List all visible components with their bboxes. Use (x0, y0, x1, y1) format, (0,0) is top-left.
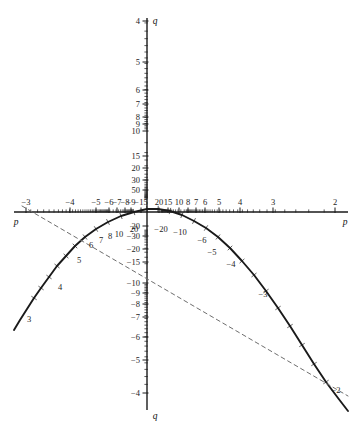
q-axis-tick-label: −20 (127, 244, 140, 254)
q-axis-label-top: q (153, 16, 158, 26)
curve-value-label: 5 (77, 255, 81, 265)
nomogram-plot: −3−4−5−6−7−8−9−1520151087654324567891015… (0, 0, 362, 427)
p-axis-tick-label: −4 (65, 197, 75, 207)
curve-value-label: −2 (331, 385, 340, 395)
p-axis-tick-label: 2 (333, 197, 337, 207)
curve-value-label: −20 (154, 224, 167, 234)
p-axis-tick-label: 6 (203, 197, 207, 207)
p-axis-tick-label: 15 (164, 197, 173, 207)
p-axis-tick-label: −15 (134, 197, 147, 207)
q-axis-tick-label: −10 (127, 278, 140, 288)
q-axis-tick-label: 10 (132, 126, 141, 136)
q-axis-tick-label: −8 (131, 299, 140, 309)
p-axis-tick-label: 7 (194, 197, 198, 207)
p-axis-label-left: p (13, 217, 19, 227)
q-axis-tick-label: 15 (132, 151, 141, 161)
p-axis-tick-label: 8 (186, 197, 190, 207)
curve-value-label: 6 (89, 240, 93, 250)
p-axis-ticks-right: 2015108765432 (155, 197, 337, 213)
q-axis-tick-label: −6 (131, 332, 140, 342)
series-parabolic-curve (14, 209, 348, 411)
p-axis-tick-label: 3 (271, 197, 275, 207)
q-axis-label-bottom: q (153, 411, 158, 421)
p-axis-tick-label: −3 (21, 197, 30, 207)
q-axis-tick-label: 5 (136, 57, 140, 67)
curve-value-label: −3 (258, 289, 267, 299)
p-axis-tick-label: −5 (91, 197, 100, 207)
q-axis-tick-label: −5 (131, 355, 140, 365)
curve-value-label: −5 (207, 247, 216, 257)
q-axis-tick-label: −15 (127, 257, 140, 267)
q-axis-tick-label: −4 (131, 388, 141, 398)
q-axis-tick-label: 20 (132, 163, 141, 173)
p-axis-tick-label: 4 (238, 197, 243, 207)
p-axis-tick-label: 20 (155, 197, 164, 207)
figure-canvas: −3−4−5−6−7−8−9−1520151087654324567891015… (0, 0, 362, 427)
curve-value-label: −6 (197, 235, 206, 245)
q-axis-tick-label: 4 (136, 16, 141, 26)
q-axis-tick-label: 7 (136, 99, 140, 109)
q-axis-tick-label: 6 (136, 85, 140, 95)
curve-value-label: 8 (108, 231, 112, 241)
p-axis-tick-label: 5 (217, 197, 221, 207)
curve-value-label: −4 (226, 259, 236, 269)
q-axis-tick-label: 50 (132, 185, 141, 195)
curve-value-label: 10 (115, 229, 124, 239)
curve-value-label: 20 (130, 224, 139, 234)
p-axis-label-right: p (342, 217, 348, 227)
q-axis-tick-label: −7 (131, 312, 140, 322)
q-axis-tick-label: −9 (131, 288, 140, 298)
p-axis-tick-label: 10 (175, 197, 184, 207)
curve-value-label: 4 (58, 282, 63, 292)
curve-value-label: 3 (27, 314, 31, 324)
curve-labels: 3456781020−20−10−6−5−4−3−2 (27, 224, 341, 395)
curve-value-label: 7 (99, 235, 103, 245)
q-axis-tick-label: 30 (132, 175, 141, 185)
curve-value-label: −10 (173, 227, 186, 237)
